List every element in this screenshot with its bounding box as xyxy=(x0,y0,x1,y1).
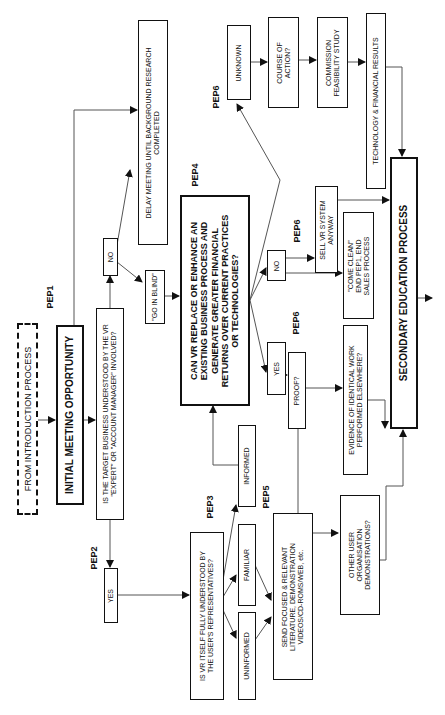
secondary-education-process-node: SECONDARY EDUCATION PROCESS xyxy=(390,157,418,429)
familiar-text: FAMILIAR xyxy=(243,549,251,581)
no-pep6-node: NO xyxy=(267,250,286,281)
commission-feasibility-study-text: COMMISSION FEASIBILITY STUDY xyxy=(324,29,340,96)
vr-understood-question-text: IS VR ITSELF FULLY UNDERSTOOD BY THE USE… xyxy=(199,551,215,681)
course-of-action-node: COURSE OF ACTION? xyxy=(268,17,299,108)
unknown-text: UNKNOWN xyxy=(235,44,243,81)
sell-vr-anyway-text: SELL VR SYSTEM ANYWAY xyxy=(318,200,334,259)
sell-vr-anyway-node: SELL VR SYSTEM ANYWAY xyxy=(315,186,338,273)
yes-pep6-node: YES xyxy=(267,342,286,395)
vr-understood-question-node: IS VR ITSELF FULLY UNDERSTOOD BY THE USE… xyxy=(190,532,224,700)
yes-pep2-text: YES xyxy=(107,588,115,602)
target-business-question-text: IS THE TARGET BUSINESS UNDERSTOOD BY THE… xyxy=(102,324,118,504)
informed-text: INFORMED xyxy=(243,447,251,484)
commission-feasibility-study-node: COMMISSION FEASIBILITY STUDY xyxy=(317,17,348,108)
secondary-education-process-text: SECONDARY EDUCATION PROCESS xyxy=(398,205,410,382)
come-clean-node: "COME CLEAN" END PEP1, END SALES PROCESS xyxy=(343,212,374,319)
pep1-label: PEP1 xyxy=(45,285,55,308)
pep5-label: PEP5 xyxy=(261,485,271,508)
technology-financial-results-text: TECHNOLOGY & FINANCIAL RESULTS xyxy=(372,37,380,164)
come-clean-text: "COME CLEAN" END PEP1, END SALES PROCESS xyxy=(346,236,370,295)
informed-node: INFORMED xyxy=(238,425,256,507)
no-pep6-text: NO xyxy=(272,260,280,271)
pep3-label: PEP3 xyxy=(205,495,215,518)
target-business-question-node: IS THE TARGET BUSINESS UNDERSTOOD BY THE… xyxy=(96,308,124,520)
uninformed-text: UNINFORMED xyxy=(243,632,251,679)
can-vr-replace-node: CAN VR REPLACE OR ENHANCE AN EXISTING BU… xyxy=(180,195,250,406)
send-focused-literature-node: SEND FOCUSED & RELEVANT LITERATURE, DEMO… xyxy=(273,513,313,680)
evidence-identical-work-node: EVIDENCE OF IDENTICAL WORK PERFORMED ELS… xyxy=(343,325,368,475)
course-of-action-text: COURSE OF ACTION? xyxy=(275,42,291,84)
proof-question-text: PROOF? xyxy=(293,376,301,405)
initial-meeting-opportunity-text: INITIAL MEETING OPPORTUNITY xyxy=(64,336,76,494)
pep2-label: PEP2 xyxy=(89,546,99,569)
from-introduction-process-node: FROM INTRODUCTION PROCESS xyxy=(17,323,38,515)
pep6-label-no: PEP6 xyxy=(292,219,302,242)
pep4-label: PEP4 xyxy=(190,163,200,186)
yes-pep2-node: YES xyxy=(104,568,118,623)
other-user-demonstrations-node: OTHER USER ORGANISATION DEMONSTRATIONS? xyxy=(340,495,380,615)
go-in-blind-text: "GO IN BLIND" xyxy=(151,273,159,320)
yes-pep6-text: YES xyxy=(272,361,280,375)
no-pep2-text: NO xyxy=(106,252,114,263)
pep6-label-yes: PEP6 xyxy=(291,311,301,334)
go-in-blind-node: "GO IN BLIND" xyxy=(145,270,165,324)
delay-meeting-node: DELAY MEETING UNTIL BACKGROUND RESEARCH … xyxy=(138,20,168,245)
can-vr-replace-text: CAN VR REPLACE OR ENHANCE AN EXISTING BU… xyxy=(189,214,241,387)
proof-question-node: PROOF? xyxy=(288,352,306,429)
other-user-demonstrations-text: OTHER USER ORGANISATION DEMONSTRATIONS? xyxy=(348,520,372,590)
familiar-node: FAMILIAR xyxy=(238,524,256,606)
initial-meeting-opportunity-node: INITIAL MEETING OPPORTUNITY xyxy=(56,325,84,505)
pep6-label-unknown: PEP6 xyxy=(211,85,221,108)
technology-financial-results-node: TECHNOLOGY & FINANCIAL RESULTS xyxy=(366,13,386,189)
from-introduction-process-text: FROM INTRODUCTION PROCESS xyxy=(22,347,32,492)
evidence-identical-work-text: EVIDENCE OF IDENTICAL WORK PERFORMED ELS… xyxy=(347,345,363,454)
send-focused-literature-text: SEND FOCUSED & RELEVANT LITERATURE, DEMO… xyxy=(281,543,305,651)
delay-meeting-text: DELAY MEETING UNTIL BACKGROUND RESEARCH … xyxy=(145,47,161,218)
no-pep2-node: NO xyxy=(103,238,118,276)
unknown-node: UNKNOWN xyxy=(227,25,251,100)
uninformed-node: UNINFORMED xyxy=(238,612,256,700)
